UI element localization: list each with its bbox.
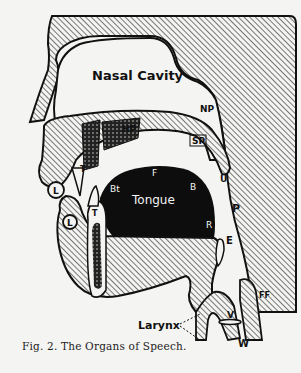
hard-palate-bone xyxy=(102,118,140,150)
label-larynx: Larynx xyxy=(138,319,180,332)
label-r: R xyxy=(206,220,212,230)
label-w: W xyxy=(238,338,249,349)
label-v: V xyxy=(227,310,234,320)
upper-teeth-bone xyxy=(82,120,100,170)
label-p: P xyxy=(232,202,240,215)
label-e: E xyxy=(226,235,233,246)
label-l-lower: L xyxy=(67,218,73,228)
epiglottis xyxy=(216,239,224,266)
label-tongue: Tongue xyxy=(131,193,175,207)
label-ff: FF xyxy=(259,291,270,300)
lower-incisor xyxy=(88,186,99,206)
organs-of-speech-diagram: Nasal Cavity NP HP SP U L T L T Bt F B T… xyxy=(0,0,301,373)
label-t-upper: T xyxy=(80,165,86,174)
label-sp: SP xyxy=(192,136,205,146)
vocal-cords xyxy=(219,320,241,325)
label-nasal-cavity: Nasal Cavity xyxy=(92,68,184,83)
label-u: U xyxy=(220,174,227,184)
figure-caption: Fig. 2. The Organs of Speech. xyxy=(22,340,186,352)
label-b: B xyxy=(190,182,196,192)
label-bt: Bt xyxy=(110,184,120,194)
label-f: F xyxy=(152,168,157,178)
label-np: NP xyxy=(200,104,215,114)
label-hp: HP xyxy=(122,124,137,134)
label-t-lower: T xyxy=(92,209,98,218)
label-l-upper: L xyxy=(53,186,59,196)
